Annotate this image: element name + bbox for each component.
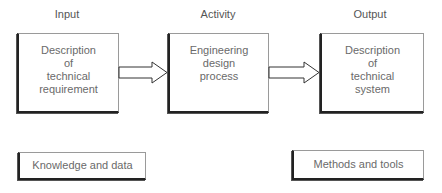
input-column-label: Input bbox=[17, 8, 117, 20]
activity-box: Engineering design process bbox=[168, 33, 269, 113]
methods-box-text: Methods and tools bbox=[314, 158, 404, 171]
arrow-input-to-activity bbox=[119, 60, 169, 86]
knowledge-box-text: Knowledge and data bbox=[32, 159, 132, 172]
arrow-input-to-activity-shape bbox=[119, 62, 167, 83]
knowledge-box: Knowledge and data bbox=[18, 152, 146, 180]
output-box: Description of technical system bbox=[320, 33, 424, 113]
output-box-text: Description of technical system bbox=[345, 34, 400, 96]
methods-box: Methods and tools bbox=[292, 150, 424, 180]
input-box-text: Description of technical requirement bbox=[39, 34, 98, 96]
output-column-label: Output bbox=[320, 8, 420, 20]
arrow-activity-to-output bbox=[269, 60, 321, 86]
activity-box-text: Engineering design process bbox=[190, 34, 249, 83]
arrow-activity-to-output-shape bbox=[269, 62, 319, 83]
input-box: Description of technical requirement bbox=[17, 33, 119, 113]
activity-column-label: Activity bbox=[168, 8, 268, 20]
